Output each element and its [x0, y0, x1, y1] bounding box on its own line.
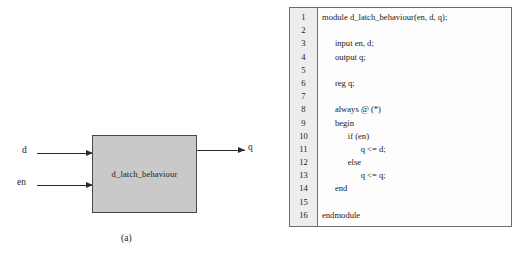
line-number: 7 [290, 90, 317, 103]
code-line: if (en) [322, 130, 511, 143]
code-line: begin [322, 117, 511, 130]
code-listing-frame: 12345678910111213141516 module d_latch_b… [289, 7, 512, 227]
code-line: else [322, 156, 511, 169]
line-number: 15 [290, 196, 317, 209]
input-signal-label-d: d [22, 145, 27, 155]
line-number: 16 [290, 209, 317, 222]
line-number: 6 [290, 77, 317, 90]
line-number: 3 [290, 37, 317, 50]
line-number-gutter: 12345678910111213141516 [290, 8, 318, 226]
module-block: d_latch_behaviour [92, 135, 197, 213]
code-line: module d_latch_behaviour(en, d, q); [322, 11, 511, 24]
figure-root: d en d_latch_behaviour q (a) 12345678910… [0, 0, 529, 258]
input-signal-label-en: en [17, 177, 26, 187]
line-number: 12 [290, 156, 317, 169]
module-block-label: d_latch_behaviour [93, 169, 196, 179]
code-line [322, 24, 511, 37]
block-diagram-panel: d en d_latch_behaviour q (a) [0, 0, 270, 258]
code-line: end [322, 182, 511, 195]
code-line [322, 64, 511, 77]
code-line: endmodule [322, 209, 511, 222]
line-number: 4 [290, 51, 317, 64]
code-line [322, 90, 511, 103]
input-wire-d [37, 153, 92, 154]
line-number: 11 [290, 143, 317, 156]
line-number: 14 [290, 182, 317, 195]
input-wire-en [37, 185, 92, 186]
line-number: 13 [290, 169, 317, 182]
code-line: q <= q; [322, 169, 511, 182]
panel-a-caption: (a) [121, 233, 132, 243]
code-line: always @ (*) [322, 103, 511, 116]
output-signal-label-q: q [248, 142, 253, 152]
code-listing-panel: 12345678910111213141516 module d_latch_b… [270, 0, 529, 258]
line-number: 9 [290, 117, 317, 130]
line-number: 10 [290, 130, 317, 143]
code-line: reg q; [322, 77, 511, 90]
code-line [322, 196, 511, 209]
output-arrowhead-q-icon [238, 147, 245, 153]
code-line: output q; [322, 51, 511, 64]
code-text-area: module d_latch_behaviour(en, d, q); inpu… [318, 8, 511, 226]
line-number: 8 [290, 103, 317, 116]
line-number: 2 [290, 24, 317, 37]
line-number: 5 [290, 64, 317, 77]
code-line: q <= d; [322, 143, 511, 156]
code-line: input en, d; [322, 37, 511, 50]
line-number: 1 [290, 11, 317, 24]
